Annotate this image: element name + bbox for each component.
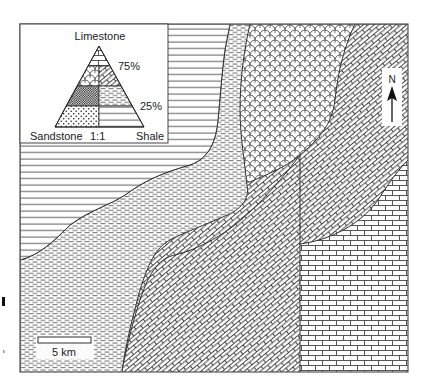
legend-corner-sandstone: Sandstone <box>30 130 83 142</box>
scale-label: 5 km <box>52 346 76 358</box>
margin-mark <box>3 350 5 353</box>
legend-box: Limestone 75% 25% Sandstone 1:1 Shale <box>20 24 168 143</box>
legend-level-25: 25% <box>140 100 162 112</box>
north-arrow: N <box>382 68 402 126</box>
legend-corner-shale: Shale <box>136 130 164 142</box>
north-label: N <box>388 74 395 85</box>
margin-mark <box>2 297 5 306</box>
legend-ratio: 1:1 <box>90 130 105 142</box>
legend-level-75: 75% <box>118 60 140 72</box>
legend-title: Limestone <box>75 30 126 42</box>
scale-bar: 5 km <box>36 335 94 359</box>
lithofacies-map-figure: Limestone 75% 25% Sandstone 1:1 Shale N <box>0 0 426 392</box>
